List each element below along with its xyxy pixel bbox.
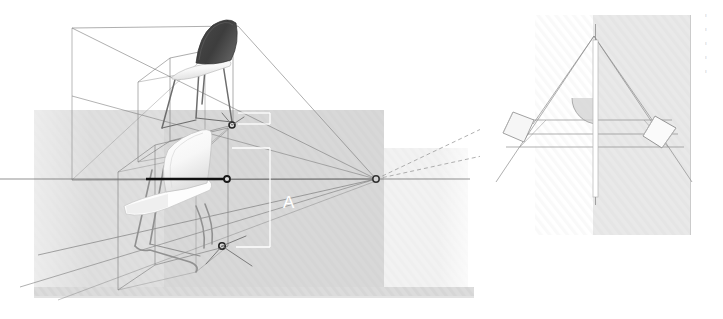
margin-note: ≡ [705, 70, 707, 74]
margin-note: ≡ [705, 56, 707, 60]
base-strip [34, 287, 474, 298]
margin-note: ≡ [705, 28, 707, 32]
plan-view-detail [496, 15, 692, 235]
plan-vertical-axis [593, 24, 598, 205]
dimension-label-a: A [283, 194, 295, 211]
margin-notes: ≡ ≡ ≡ ≡ ≡ [705, 14, 721, 73]
perspective-view [0, 0, 723, 319]
margin-note: ≡ [705, 42, 707, 46]
band-fade [330, 105, 480, 295]
margin-note: ≡ [705, 14, 707, 18]
figure-canvas: A ≡ ≡ ≡ ≡ ≡ [0, 0, 723, 319]
